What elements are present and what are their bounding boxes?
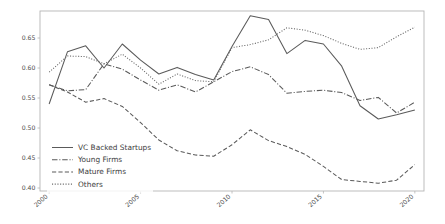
- x-tick-label: 2015: [307, 193, 323, 209]
- y-tick-label: 0.40: [22, 184, 36, 191]
- y-tick-label: 0.55: [22, 94, 36, 101]
- y-axis-ticks: 0.400.450.500.550.600.65: [22, 34, 40, 191]
- x-tick-label: 2020: [398, 193, 414, 209]
- x-tick-label: 2010: [215, 193, 231, 209]
- line-chart: 0.400.450.500.550.600.65 200020052010201…: [0, 0, 445, 224]
- chart-figure: 0.400.450.500.550.600.65 200020052010201…: [0, 0, 445, 224]
- legend-label-young-firms: Young Firms: [77, 155, 122, 164]
- y-tick-label: 0.60: [22, 64, 36, 71]
- y-tick-label: 0.65: [22, 34, 36, 41]
- y-tick-label: 0.45: [22, 154, 36, 161]
- x-axis-ticks: 20002005201020152020: [32, 191, 414, 208]
- y-tick-label: 0.50: [22, 124, 36, 131]
- x-tick-label: 2000: [32, 193, 48, 209]
- x-tick-label: 2005: [124, 193, 140, 209]
- chart-legend: VC Backed StartupsYoung FirmsMature Firm…: [47, 139, 153, 193]
- legend-label-vc-backed-startups: VC Backed Startups: [78, 143, 151, 152]
- legend-label-others: Others: [78, 180, 103, 189]
- legend-label-mature-firms: Mature Firms: [78, 167, 126, 176]
